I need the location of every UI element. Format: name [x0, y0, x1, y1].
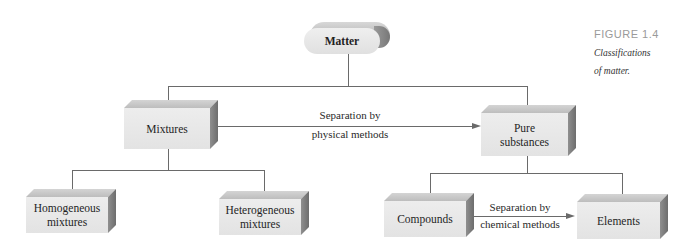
box-top-face — [219, 191, 309, 199]
node-matter-label: Matter — [325, 35, 359, 47]
connector-to-elements — [622, 173, 623, 196]
box-front-face: Homogeneous mixtures — [26, 197, 108, 233]
arrow-physical-separation — [218, 126, 473, 127]
connector-mixtures-down — [168, 149, 169, 170]
node-compounds: Compounds — [384, 193, 474, 237]
caption-text-line1: Classifications — [594, 48, 650, 58]
box-front-face: Elements — [577, 202, 660, 239]
connector-pure-down — [527, 156, 528, 173]
node-homogeneous-mixtures: Homogeneous mixtures — [26, 189, 116, 233]
box-side-face — [568, 105, 576, 156]
edge-chemical-label-line2: chemical methods — [465, 218, 575, 230]
node-mixtures: Mixtures — [124, 100, 218, 149]
arrow-chemical-separation — [474, 216, 567, 217]
figure-caption: FIGURE 1.4 Classifications of matter. — [594, 24, 694, 78]
figure-label: FIGURE 1.4 — [594, 28, 659, 40]
box-top-face — [26, 189, 116, 197]
connector-to-compounds — [430, 173, 431, 195]
box-top-face — [577, 194, 668, 202]
node-homogeneous-label-line2: mixtures — [47, 215, 87, 229]
box-top-face — [481, 105, 576, 113]
connector-mixtures-horizontal — [72, 170, 265, 171]
edge-physical-label-line1: Separation by — [290, 109, 410, 121]
node-heterogeneous-label-line1: Heterogeneous — [226, 203, 295, 217]
box-top-face — [384, 193, 474, 201]
pill-front-face: Matter — [304, 28, 380, 54]
connector-to-pure — [527, 86, 528, 106]
node-elements-label: Elements — [597, 214, 640, 228]
node-pure-label-line1: Pure — [514, 121, 535, 135]
connector-matter-down — [348, 54, 349, 86]
box-front-face: Heterogeneous mixtures — [219, 199, 301, 235]
connector-pure-horizontal — [430, 173, 623, 174]
node-matter: Matter — [304, 22, 390, 54]
node-pure-substances: Pure substances — [481, 105, 576, 156]
box-top-face — [124, 100, 218, 108]
node-pure-label-line2: substances — [500, 135, 549, 149]
node-heterogeneous-mixtures: Heterogeneous mixtures — [219, 191, 309, 235]
box-front-face: Compounds — [384, 201, 466, 237]
node-elements: Elements — [577, 194, 668, 239]
edge-chemical-label-line1: Separation by — [465, 201, 575, 213]
box-front-face: Mixtures — [124, 108, 210, 149]
edge-physical-label-line2: physical methods — [290, 128, 410, 140]
node-compounds-label: Compounds — [397, 212, 453, 226]
arrowhead-physical — [472, 123, 481, 129]
connector-matter-horizontal — [168, 86, 528, 87]
caption-text-line2: of matter. — [594, 66, 630, 76]
node-homogeneous-label-line1: Homogeneous — [34, 201, 100, 215]
node-heterogeneous-label-line2: mixtures — [240, 217, 280, 231]
node-mixtures-label: Mixtures — [146, 122, 188, 136]
box-side-face — [210, 100, 218, 149]
box-front-face: Pure substances — [481, 113, 568, 156]
